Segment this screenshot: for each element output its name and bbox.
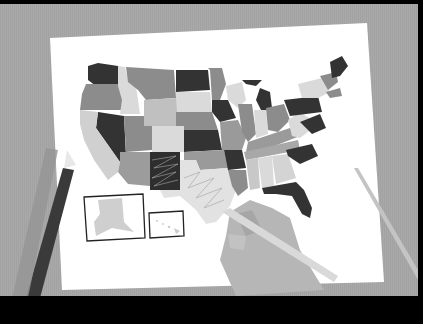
alaska-inset xyxy=(84,194,145,241)
map-coloring-scene xyxy=(0,0,423,324)
hawaii-inset xyxy=(149,211,184,238)
illustration xyxy=(0,0,423,324)
